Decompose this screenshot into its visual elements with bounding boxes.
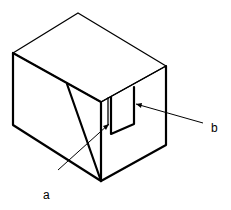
- box-diagram: a b: [0, 0, 231, 210]
- leader-b: [136, 104, 203, 123]
- left-face-edges: [13, 53, 101, 181]
- label-a: a: [43, 188, 50, 202]
- left-top-edge: [13, 53, 101, 102]
- label-b: b: [211, 121, 218, 135]
- top-face: [13, 13, 166, 102]
